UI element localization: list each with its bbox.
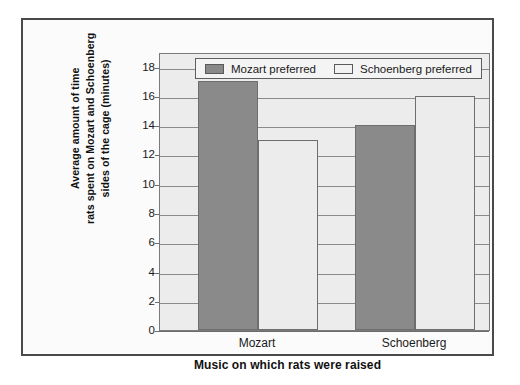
y-axis-title-line-2: rats spent on Mozart and Schoenberg xyxy=(83,14,98,242)
bar-mozart-raised-schoenberg-preferred[interactable] xyxy=(258,140,318,330)
y-tick-label-14: 14 xyxy=(127,120,155,132)
bar-mozart-raised-mozart-preferred[interactable] xyxy=(198,81,258,330)
y-tick-label-6: 6 xyxy=(127,237,155,249)
legend-entry-schoenberg-preferred[interactable]: Schoenberg preferred xyxy=(334,63,472,75)
y-tick-label-2: 2 xyxy=(127,296,155,308)
x-axis-title-text: Music on which rats were raised xyxy=(194,358,381,372)
y-tick-label-8: 8 xyxy=(127,208,155,220)
plot-area xyxy=(159,53,490,331)
legend-label-mozart-preferred: Mozart preferred xyxy=(231,63,316,75)
x-axis-title: Music on which rats were raised xyxy=(23,358,492,372)
chart-figure-frame: Average amount of time rats spent on Moz… xyxy=(21,18,494,356)
bar-schoenberg-raised-mozart-preferred[interactable] xyxy=(355,125,415,330)
y-axis-title-line-3: sides of the cage (minutes) xyxy=(97,14,112,242)
legend-swatch-icon-schoenberg-preferred xyxy=(334,64,353,74)
bar-schoenberg-raised-schoenberg-preferred[interactable] xyxy=(415,96,475,330)
gridline-0 xyxy=(160,331,489,332)
legend-entry-mozart-preferred[interactable]: Mozart preferred xyxy=(205,63,316,75)
y-tick-label-16: 16 xyxy=(127,91,155,103)
y-axis-title-line-1: Average amount of time xyxy=(68,14,83,242)
y-tick-label-4: 4 xyxy=(127,267,155,279)
x-category-label-mozart: Mozart xyxy=(239,336,276,350)
legend-swatch-icon-mozart-preferred xyxy=(205,64,224,74)
legend-label-schoenberg-preferred: Schoenberg preferred xyxy=(360,63,472,75)
y-tick-label-12: 12 xyxy=(127,150,155,162)
y-tick-label-10: 10 xyxy=(127,179,155,191)
y-axis-ticks: 0 2 4 6 8 10 12 14 16 18 xyxy=(123,53,155,331)
chart-legend: Mozart preferred Schoenberg preferred xyxy=(195,58,482,79)
y-tick-label-18: 18 xyxy=(127,62,155,74)
x-category-label-schoenberg: Schoenberg xyxy=(382,336,447,350)
y-axis-title: Average amount of time rats spent on Moz… xyxy=(68,14,113,242)
y-tick-label-0: 0 xyxy=(127,325,155,337)
